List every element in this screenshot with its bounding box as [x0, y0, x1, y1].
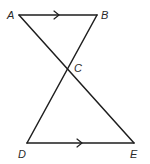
segment-bd: [27, 15, 97, 143]
geometry-diagram: A B C D E: [0, 0, 150, 164]
point-label-e: E: [130, 148, 138, 160]
point-label-a: A: [6, 9, 14, 21]
point-label-c: C: [74, 62, 82, 74]
point-label-d: D: [18, 148, 26, 160]
segment-ae: [19, 15, 134, 143]
point-label-b: B: [101, 9, 108, 21]
